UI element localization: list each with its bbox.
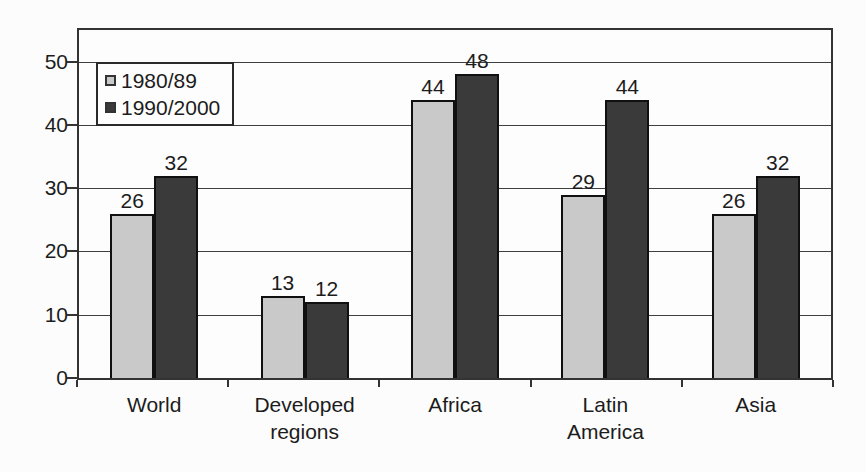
y-axis-tick-label: 50 bbox=[20, 49, 68, 75]
legend-label: 1990/2000 bbox=[121, 94, 220, 121]
x-axis-category-label: Developed regions bbox=[243, 391, 367, 445]
bar-value-label: 48 bbox=[465, 49, 488, 73]
legend-marker-icon bbox=[105, 75, 116, 86]
bar-1990-2000-developed-regions: 12 bbox=[305, 302, 349, 378]
bar-value-label: 32 bbox=[165, 151, 188, 175]
bar-1980-89-africa: 44 bbox=[411, 100, 455, 378]
bar-1980-89-asia: 26 bbox=[712, 214, 756, 379]
y-axis-tick-label: 20 bbox=[20, 238, 68, 264]
x-axis-tick bbox=[76, 380, 78, 387]
category-slot-5: 2632 bbox=[681, 30, 831, 378]
x-axis-tick bbox=[378, 380, 380, 387]
x-axis-tick bbox=[681, 380, 683, 387]
x-axis-category-label: World bbox=[92, 391, 216, 418]
bar-chart: 26321312444829442632 1980/891990/2000 01… bbox=[0, 0, 866, 472]
bar-1990-2000-asia: 32 bbox=[756, 176, 800, 378]
bar-value-label: 26 bbox=[121, 189, 144, 213]
y-axis-tick bbox=[67, 187, 77, 189]
y-axis-tick-label: 10 bbox=[20, 302, 68, 328]
bar-1990-2000-world: 32 bbox=[154, 176, 198, 378]
legend: 1980/891990/2000 bbox=[96, 62, 234, 126]
x-axis-category-label: Africa bbox=[393, 391, 517, 418]
bar-value-label: 44 bbox=[616, 75, 639, 99]
category-slot-3: 4448 bbox=[380, 30, 530, 378]
y-axis-tick bbox=[67, 250, 77, 252]
y-axis-tick-label: 40 bbox=[20, 112, 68, 138]
legend-marker-icon bbox=[105, 102, 116, 113]
y-axis-tick bbox=[67, 377, 77, 379]
bar-value-label: 26 bbox=[722, 189, 745, 213]
bar-1980-89-developed-regions: 13 bbox=[261, 296, 305, 378]
bar-value-label: 12 bbox=[315, 277, 338, 301]
legend-label: 1980/89 bbox=[121, 67, 197, 94]
y-axis-tick bbox=[67, 124, 77, 126]
y-axis-tick-label: 30 bbox=[20, 175, 68, 201]
x-axis-tick bbox=[530, 380, 532, 387]
x-axis-tick bbox=[832, 380, 834, 387]
bar-value-label: 13 bbox=[271, 271, 294, 295]
bar-value-label: 44 bbox=[421, 75, 444, 99]
y-axis-tick bbox=[67, 314, 77, 316]
x-axis-category-label: Asia bbox=[694, 391, 818, 418]
bar-value-label: 29 bbox=[572, 170, 595, 194]
x-axis-tick bbox=[227, 380, 229, 387]
category-slot-4: 2944 bbox=[530, 30, 680, 378]
bar-1990-2000-latin-america: 44 bbox=[605, 100, 649, 378]
category-slot-2: 1312 bbox=[229, 30, 379, 378]
legend-item-1980-89: 1980/89 bbox=[105, 67, 220, 94]
bar-1990-2000-africa: 48 bbox=[455, 74, 499, 378]
bar-1980-89-latin-america: 29 bbox=[561, 195, 605, 378]
x-axis-category-label: Latin America bbox=[543, 391, 667, 445]
y-axis-tick-label: 0 bbox=[20, 365, 68, 391]
bar-1980-89-world: 26 bbox=[110, 214, 154, 379]
y-axis-tick bbox=[67, 61, 77, 63]
legend-item-1990-2000: 1990/2000 bbox=[105, 94, 220, 121]
bar-value-label: 32 bbox=[766, 151, 789, 175]
